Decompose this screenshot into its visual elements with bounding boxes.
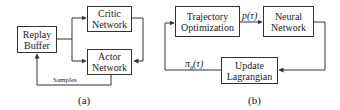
- critic-network-node: Critic Network: [87, 6, 132, 32]
- caption-b: (b): [248, 95, 261, 106]
- actor-network-line2: Network: [92, 62, 127, 73]
- update-line1: Update: [235, 60, 264, 71]
- update-line2: Lagrangian: [227, 71, 273, 82]
- pi-theta-label: πθ(τ): [185, 58, 203, 74]
- caption-a: (a): [78, 95, 90, 106]
- samples-label: Samples: [53, 76, 77, 84]
- tau-argument: (τ): [193, 58, 203, 69]
- replay-buffer-line2: Buffer: [24, 40, 50, 51]
- actor-network-line1: Actor: [98, 51, 121, 62]
- neural-network-line2: Network: [271, 22, 306, 33]
- critic-network-line1: Critic: [98, 8, 121, 19]
- actor-network-node: Actor Network: [87, 49, 132, 75]
- p-tau-label: p(τ): [242, 10, 257, 21]
- trajectory-optimization-node: Trajectory Optimization: [175, 6, 240, 37]
- replay-buffer-line1: Replay: [23, 29, 51, 40]
- neural-network-line1: Neural: [275, 11, 302, 22]
- update-lagrangian-node: Update Lagrangian: [221, 57, 278, 84]
- neural-network-node: Neural Network: [263, 6, 314, 37]
- replay-buffer-node: Replay Buffer: [17, 26, 57, 53]
- edge-critic-to-actor: [132, 18, 143, 61]
- trajectory-line2: Optimization: [181, 22, 234, 33]
- trajectory-line1: Trajectory: [187, 11, 228, 22]
- critic-network-line2: Network: [92, 19, 127, 30]
